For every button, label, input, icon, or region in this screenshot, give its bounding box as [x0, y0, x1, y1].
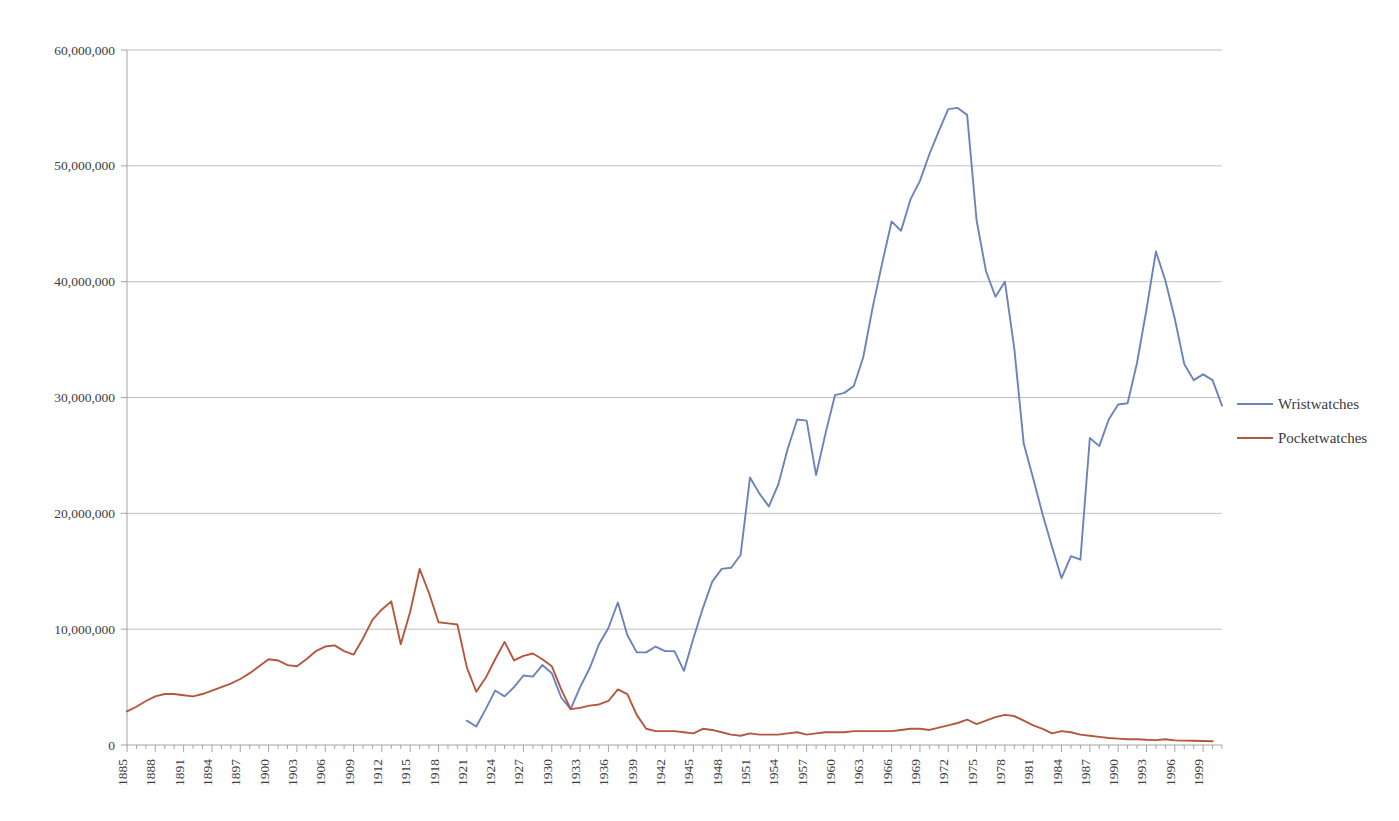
x-tick-label: 1954	[766, 759, 781, 786]
series-line-pocketwatches	[127, 569, 1213, 741]
legend-label-pocketwatches: Pocketwatches	[1278, 430, 1367, 446]
x-tick-label: 1888	[143, 759, 158, 786]
chart-container: 010,000,00020,000,00030,000,00040,000,00…	[0, 0, 1399, 821]
x-tick-label: 1951	[738, 759, 753, 786]
x-tick-label: 1906	[313, 759, 328, 786]
x-tick-label: 1993	[1134, 759, 1149, 786]
x-tick-label: 1924	[483, 759, 498, 786]
x-tick-label: 1909	[342, 759, 357, 786]
x-tick-label: 1936	[596, 759, 611, 786]
x-tick-label: 1921	[455, 759, 470, 786]
y-axis-line	[121, 50, 127, 745]
y-tick-label: 30,000,000	[54, 390, 115, 405]
x-axis-tick-labels: 1885188818911894189719001903190619091912…	[115, 759, 1206, 786]
y-tick-label: 10,000,000	[54, 622, 115, 637]
data-series-group	[127, 108, 1222, 741]
x-tick-label: 1903	[285, 759, 300, 786]
x-tick-label: 1966	[880, 759, 895, 786]
legend-label-wristwatches: Wristwatches	[1278, 396, 1359, 412]
chart-legend: WristwatchesPocketwatches	[1237, 396, 1367, 446]
x-tick-label: 1942	[653, 759, 668, 786]
x-tick-label: 1975	[965, 759, 980, 786]
x-tick-label: 1957	[795, 759, 810, 786]
y-tick-label: 40,000,000	[54, 274, 115, 289]
x-tick-label: 1915	[398, 759, 413, 786]
x-tick-label: 1900	[257, 759, 272, 786]
y-axis-tick-labels: 010,000,00020,000,00030,000,00040,000,00…	[54, 43, 115, 753]
x-tick-label: 1939	[625, 759, 640, 786]
series-line-wristwatches	[467, 108, 1222, 727]
x-tick-label: 1891	[172, 759, 187, 786]
x-tick-label: 1960	[823, 759, 838, 786]
x-tick-label: 1930	[540, 759, 555, 786]
x-tick-label: 1972	[936, 759, 951, 786]
x-tick-label: 1933	[568, 759, 583, 786]
x-tick-label: 1999	[1191, 759, 1206, 786]
y-tick-label: 20,000,000	[54, 506, 115, 521]
x-tick-label: 1927	[511, 759, 526, 786]
x-tick-label: 1948	[710, 759, 725, 786]
x-tick-label: 1978	[993, 759, 1008, 786]
gridlines	[127, 50, 1222, 629]
x-tick-label: 1987	[1078, 759, 1093, 786]
y-tick-label: 60,000,000	[54, 43, 115, 58]
x-tick-label: 1894	[200, 759, 215, 786]
x-tick-label: 1912	[370, 759, 385, 786]
x-tick-label: 1996	[1163, 759, 1178, 786]
x-tick-label: 1981	[1021, 759, 1036, 786]
x-tick-label: 1990	[1106, 759, 1121, 786]
x-tick-label: 1885	[115, 759, 130, 786]
y-tick-label: 50,000,000	[54, 158, 115, 173]
x-tick-label: 1963	[851, 759, 866, 786]
x-tick-label: 1945	[681, 759, 696, 786]
x-tick-label: 1918	[427, 759, 442, 786]
x-tick-label: 1897	[228, 759, 243, 786]
y-tick-label: 0	[108, 738, 115, 753]
x-tick-label: 1984	[1050, 759, 1065, 786]
x-axis-tickmarks	[127, 745, 1222, 752]
x-tick-label: 1969	[908, 759, 923, 786]
line-chart: 010,000,00020,000,00030,000,00040,000,00…	[0, 0, 1399, 821]
